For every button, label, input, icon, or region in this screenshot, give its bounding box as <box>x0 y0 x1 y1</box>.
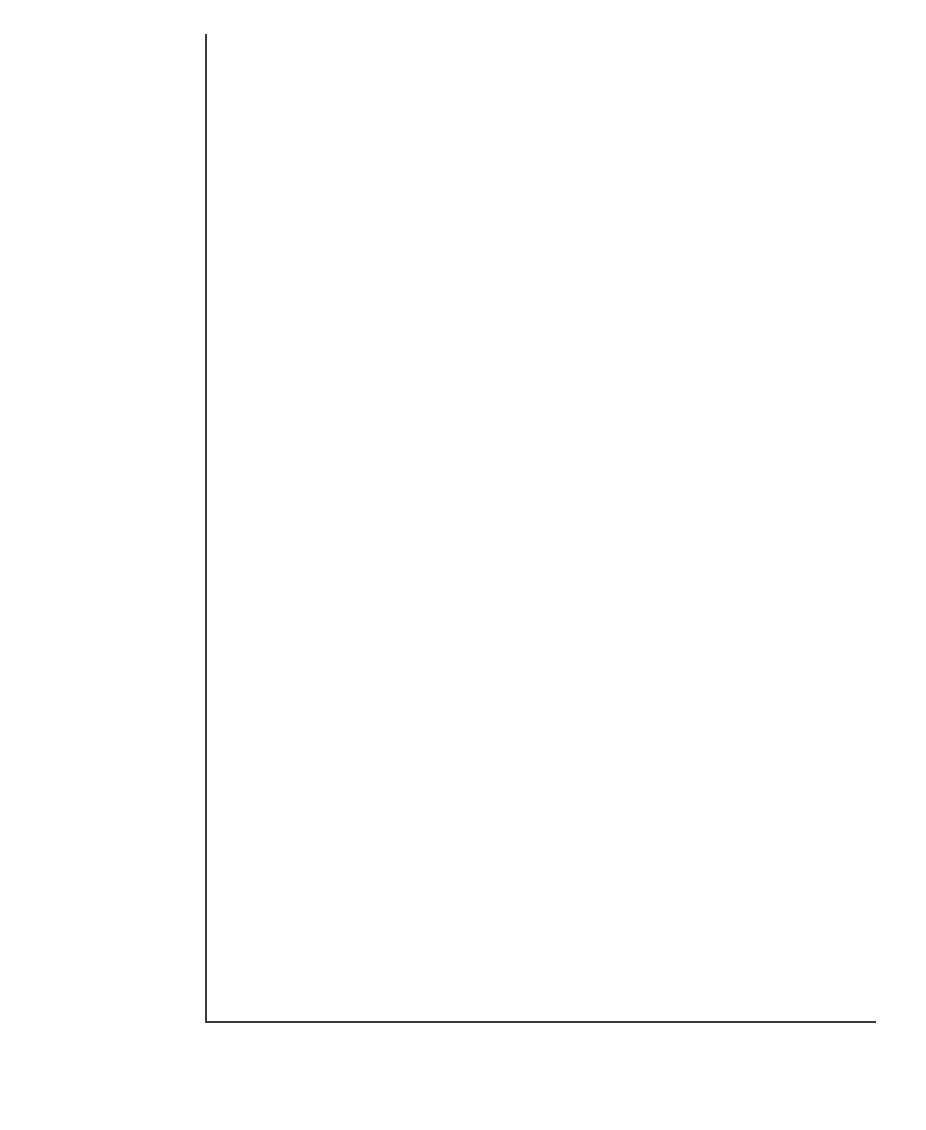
y-axis-line <box>205 34 207 1022</box>
x-axis-line <box>205 1021 876 1023</box>
plot-area <box>0 0 926 1130</box>
bar-chart <box>0 0 926 1130</box>
